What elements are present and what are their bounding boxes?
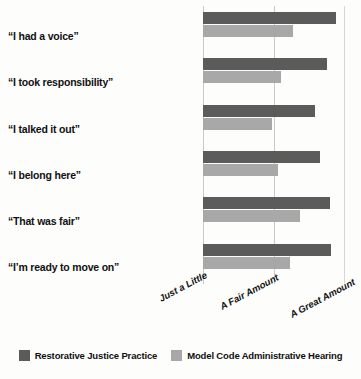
legend-entry-model-code-administrative-hearing: Model Code Administrative Hearing (171, 350, 342, 361)
x-axis-tick-labels: Just a Little A Fair Amount A Great Amou… (0, 286, 361, 332)
bar-restorative-justice-practice-5 (203, 244, 331, 256)
gridline-a-fair-amount (274, 6, 275, 284)
bar-group-4 (203, 197, 345, 223)
x-tick-label-0: Just a Little (157, 269, 209, 303)
bar-model-code-administrative-hearing-3 (203, 164, 278, 176)
bar-model-code-administrative-hearing-2 (203, 118, 272, 130)
legend-label-series-a: Restorative Justice Practice (35, 350, 158, 361)
category-label-1: “I took responsibility” (8, 76, 198, 88)
category-label-3: “I belong here” (8, 169, 198, 181)
legend-swatch-icon-series-b (171, 350, 182, 361)
bar-restorative-justice-practice-1 (203, 58, 327, 70)
bar-model-code-administrative-hearing-0 (203, 25, 293, 37)
category-label-2: “I talked it out” (8, 123, 198, 135)
category-label-5: “I’m ready to move on” (8, 261, 198, 273)
bar-model-code-administrative-hearing-4 (203, 210, 300, 222)
gridline-just-a-little (203, 6, 204, 284)
category-label-0: “I had a voice” (8, 30, 198, 42)
bar-restorative-justice-practice-4 (203, 197, 330, 209)
bar-restorative-justice-practice-2 (203, 105, 315, 117)
legend-label-series-b: Model Code Administrative Hearing (187, 350, 342, 361)
bar-chart: “I had a voice” “I took responsibility” … (0, 0, 361, 379)
bar-group-1 (203, 58, 345, 84)
bar-model-code-administrative-hearing-5 (203, 257, 290, 269)
category-label-4: “That was fair” (8, 215, 198, 227)
chart-legend: Restorative Justice Practice Model Code … (0, 345, 361, 365)
bar-group-2 (203, 105, 345, 131)
bar-group-5 (203, 244, 345, 270)
bar-restorative-justice-practice-0 (203, 12, 336, 24)
bar-model-code-administrative-hearing-1 (203, 71, 281, 83)
gridline-a-great-amount (344, 6, 345, 284)
bar-group-0 (203, 12, 345, 38)
legend-swatch-icon-series-a (19, 350, 30, 361)
bar-group-3 (203, 151, 345, 177)
legend-entry-restorative-justice-practice: Restorative Justice Practice (19, 350, 158, 361)
plot-area (203, 6, 345, 284)
bar-restorative-justice-practice-3 (203, 151, 320, 163)
